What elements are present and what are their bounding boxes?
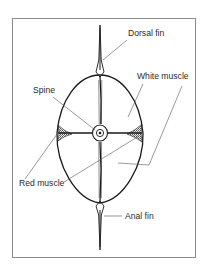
leader-white-muscle-2 <box>118 86 182 165</box>
leader-spine <box>53 97 95 130</box>
spine-notochord <box>99 132 102 135</box>
label-white-muscle: White muscle <box>137 71 189 81</box>
leader-white-muscle-1 <box>128 84 143 117</box>
label-spine: Spine <box>33 85 55 95</box>
leader-dorsal-fin <box>103 40 127 60</box>
leader-red-muscle-left <box>25 130 60 179</box>
fish-cross-section-diagram: Dorsal fin White muscle Spine Red muscle… <box>0 0 207 276</box>
label-anal-fin: Anal fin <box>125 211 154 221</box>
label-red-muscle: Red muscle <box>19 178 65 188</box>
label-dorsal-fin: Dorsal fin <box>128 28 165 38</box>
